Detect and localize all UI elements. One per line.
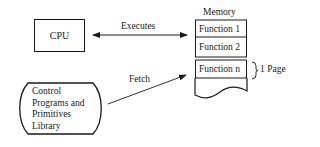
page-label: 1 Page	[260, 64, 286, 74]
memory-row-function-1: Function 1	[195, 20, 247, 37]
function-n-label: Function n	[199, 64, 240, 74]
library-line: Primitives	[32, 109, 85, 121]
memory-continuation	[195, 78, 247, 98]
library-line: Programs and	[32, 98, 85, 110]
cpu-label: CPU	[50, 30, 69, 41]
memory-row-function-n: Function n	[195, 60, 247, 78]
function-1-label: Function 1	[199, 24, 240, 34]
cpu-box: CPU	[34, 19, 85, 52]
memory-title: Memory	[203, 7, 236, 17]
page-bracket-icon	[252, 62, 258, 79]
function-2-label: Function 2	[199, 42, 240, 52]
library-text: Control Programs and Primitives Library	[32, 86, 85, 132]
executes-label: Executes	[121, 21, 155, 31]
fetch-label: Fetch	[129, 74, 150, 84]
library-line: Control	[32, 86, 85, 98]
memory-row-function-2: Function 2	[195, 37, 247, 57]
library-line: Library	[32, 121, 85, 133]
